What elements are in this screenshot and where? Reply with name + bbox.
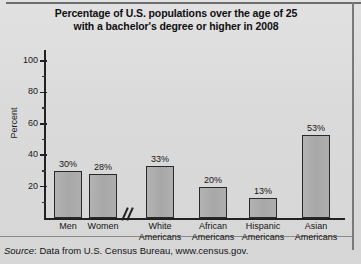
x-label-line-1: Hispanic: [246, 221, 281, 231]
y-tick-minor-10: [42, 202, 46, 204]
y-tick-major-100: [40, 60, 47, 62]
x-axis-line: [44, 218, 345, 220]
y-tick-label-20: 20: [12, 181, 38, 191]
y-tick-minor-70: [42, 107, 46, 109]
chart-figure: Percentage of U.S. populations over the …: [0, 0, 361, 264]
y-tick-minor-90: [42, 76, 46, 78]
x-label-line-1: White: [148, 221, 171, 231]
y-tick-major-60: [40, 123, 47, 125]
x-label-line-1: African: [199, 221, 227, 231]
bar-value-label-asian-americans: 53%: [296, 123, 336, 133]
source-label: Source: [4, 245, 34, 256]
y-tick-minor-50: [42, 139, 46, 141]
y-tick-label-100: 100: [12, 55, 38, 65]
bar-value-label-hispanic-americans: 13%: [243, 186, 283, 196]
y-tick-label-40: 40: [12, 149, 38, 159]
y-tick-major-40: [40, 154, 47, 156]
plot-area: Percent 20406080100 30%28%33%20%13%53% M…: [0, 0, 361, 264]
y-tick-major-20: [40, 186, 47, 188]
bar-african-americans: [199, 187, 227, 218]
y-tick-label-80: 80: [12, 86, 38, 96]
bar-white-americans: [146, 166, 174, 218]
x-label-asian-americans: AsianAmericans: [284, 221, 348, 243]
bar-value-label-african-americans: 20%: [193, 175, 233, 185]
bar-hispanic-americans: [249, 198, 277, 218]
y-tick-major-80: [40, 92, 47, 94]
source-caption: Source: Data from U.S. Census Bureau, ww…: [4, 245, 248, 256]
bar-men: [54, 171, 82, 218]
bar-value-label-men: 30%: [48, 159, 88, 169]
bar-women: [89, 174, 117, 218]
y-tick-minor-30: [42, 170, 46, 172]
x-label-line-1: Asian: [305, 221, 328, 231]
axis-break-marker: [118, 205, 140, 223]
x-label-line-2: Americans: [284, 232, 348, 243]
source-text: Data from U.S. Census Bureau, www.census…: [39, 245, 248, 256]
y-tick-label-60: 60: [12, 118, 38, 128]
x-label-line-1: Women: [88, 221, 119, 231]
bar-value-label-women: 28%: [83, 162, 123, 172]
bar-asian-americans: [302, 135, 330, 218]
bar-value-label-white-americans: 33%: [140, 154, 180, 164]
